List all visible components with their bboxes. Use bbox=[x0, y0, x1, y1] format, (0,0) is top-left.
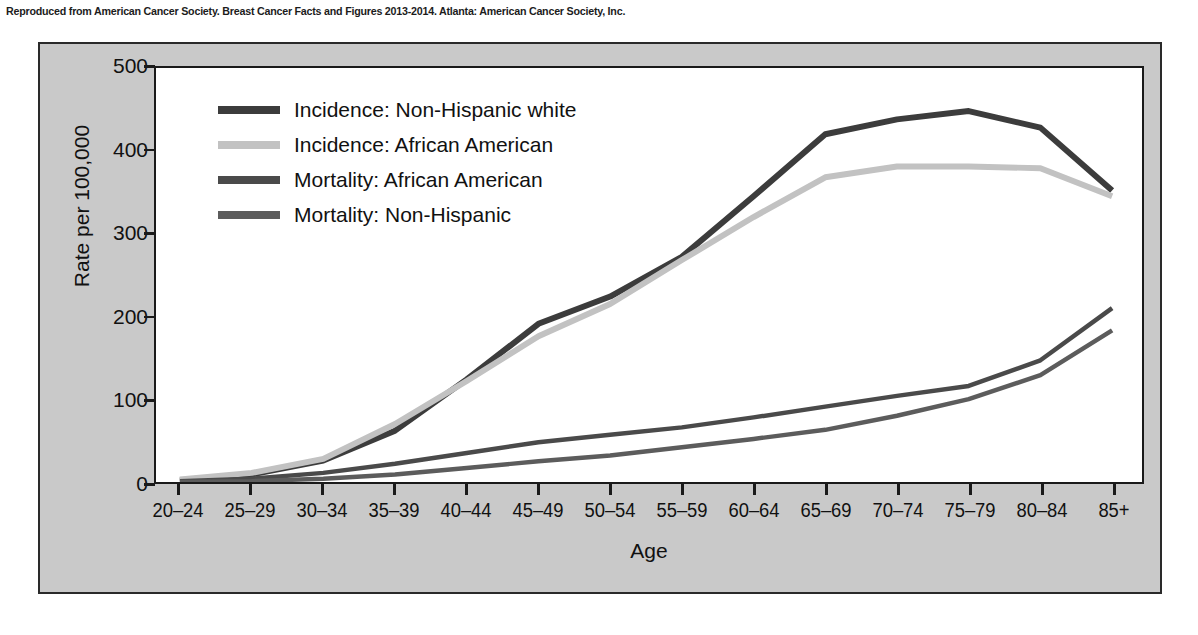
legend-color-swatch bbox=[218, 141, 280, 149]
legend-item-label: Incidence: African American bbox=[294, 133, 553, 157]
plot-area: Incidence: Non-Hispanic whiteIncidence: … bbox=[154, 66, 1144, 484]
x-axis-tick-mark bbox=[1041, 484, 1044, 495]
y-axis-title: Rate per 100,000 bbox=[70, 86, 94, 326]
y-axis-tick-label: 400 bbox=[90, 139, 148, 160]
y-axis-tick-mark bbox=[144, 399, 155, 402]
x-axis-tick-mark bbox=[249, 484, 252, 495]
legend-color-swatch bbox=[218, 176, 280, 184]
legend-item[interactable]: Incidence: Non-Hispanic white bbox=[218, 92, 648, 127]
x-axis-tick-mark bbox=[753, 484, 756, 495]
y-axis-tick-label: 200 bbox=[90, 306, 148, 327]
chart-legend: Incidence: Non-Hispanic whiteIncidence: … bbox=[218, 92, 648, 232]
x-axis-tick-label: 60–64 bbox=[728, 499, 779, 522]
figure-source-caption: Reproduced from American Cancer Society.… bbox=[6, 5, 1076, 17]
x-axis-tick-label: 40–44 bbox=[440, 499, 491, 522]
legend-item[interactable]: Mortality: Non-Hispanic bbox=[218, 197, 648, 232]
x-axis-tick-label: 70–74 bbox=[872, 499, 923, 522]
y-axis-tick-label: 500 bbox=[90, 55, 148, 76]
x-axis-tick-mark bbox=[1113, 484, 1116, 495]
x-axis-tick-label: 65–69 bbox=[800, 499, 851, 522]
y-axis-tick-label: 300 bbox=[90, 222, 148, 243]
x-axis-tick-mark bbox=[537, 484, 540, 495]
x-axis-tick-mark bbox=[177, 484, 180, 495]
x-axis-tick-label: 45–49 bbox=[512, 499, 563, 522]
x-axis-tick-label: 35–39 bbox=[368, 499, 419, 522]
x-axis-tick-mark bbox=[969, 484, 972, 495]
legend-color-swatch bbox=[218, 106, 280, 114]
x-axis-tick-label: 75–79 bbox=[944, 499, 995, 522]
x-axis-tick-label: 20–24 bbox=[152, 499, 203, 522]
y-axis-tick-label: 0 bbox=[90, 473, 148, 494]
y-axis-tick-mark bbox=[144, 65, 155, 68]
x-axis-tick-mark bbox=[393, 484, 396, 495]
x-axis-tick-label: 25–29 bbox=[224, 499, 275, 522]
x-axis-tick-mark bbox=[897, 484, 900, 495]
y-axis-tick-mark bbox=[144, 232, 155, 235]
x-axis-tick-mark bbox=[681, 484, 684, 495]
x-axis-tick-mark bbox=[465, 484, 468, 495]
y-axis-tick-mark bbox=[144, 316, 155, 319]
legend-item-label: Mortality: Non-Hispanic bbox=[294, 203, 511, 227]
figure-panel: 0100200300400500 Rate per 100,000 Incide… bbox=[38, 42, 1162, 594]
x-axis-tick-mark bbox=[825, 484, 828, 495]
x-axis-tick-mark bbox=[321, 484, 324, 495]
x-axis-tick-label: 30–34 bbox=[296, 499, 347, 522]
x-axis-tick-label: 55–59 bbox=[656, 499, 707, 522]
legend-item-label: Mortality: African American bbox=[294, 168, 543, 192]
legend-item[interactable]: Mortality: African American bbox=[218, 162, 648, 197]
x-axis-tick-label: 50–54 bbox=[584, 499, 635, 522]
x-axis-title: Age bbox=[154, 539, 1144, 563]
y-axis-tick-label: 100 bbox=[90, 389, 148, 410]
legend-item-label: Incidence: Non-Hispanic white bbox=[294, 98, 576, 122]
legend-color-swatch bbox=[218, 211, 280, 219]
y-axis-tick-mark bbox=[144, 483, 155, 486]
x-axis-tick-mark bbox=[609, 484, 612, 495]
legend-item[interactable]: Incidence: African American bbox=[218, 127, 648, 162]
series-line bbox=[180, 308, 1112, 481]
x-axis-tick-label: 85+ bbox=[1098, 499, 1129, 522]
x-axis-tick-label: 80–84 bbox=[1016, 499, 1067, 522]
y-axis-tick-mark bbox=[144, 149, 155, 152]
